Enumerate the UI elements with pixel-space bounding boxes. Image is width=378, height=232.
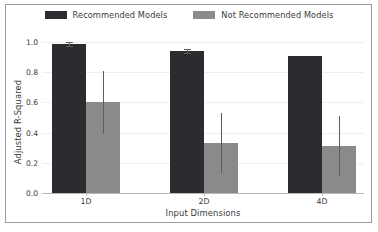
x-tick-mark — [322, 193, 323, 196]
x-tick-label-4d: 4D — [292, 197, 352, 206]
bar-1d-recommended — [52, 44, 86, 193]
y-axis-label: Adjusted R-Squared — [13, 57, 23, 187]
error-bar-cap — [66, 46, 73, 47]
error-bar — [103, 71, 104, 134]
chart-figure: Recommended Models Not Recommended Model… — [0, 0, 378, 232]
plot-area — [42, 42, 364, 193]
bar-2d-recommended — [170, 51, 204, 193]
error-bar — [221, 113, 222, 173]
x-tick-mark — [86, 193, 87, 196]
x-axis-line — [42, 193, 364, 194]
x-tick-mark — [204, 193, 205, 196]
bar-4d-recommended — [288, 56, 322, 193]
x-tick-label-2d: 2D — [174, 197, 234, 206]
error-bar-cap — [66, 42, 73, 43]
x-axis-label: Input Dimensions — [42, 208, 364, 218]
y-tick-label: 0.0 — [16, 189, 38, 198]
error-bar-cap — [184, 49, 191, 50]
x-tick-label-1d: 1D — [56, 197, 116, 206]
error-bar — [339, 116, 340, 176]
gridline — [42, 42, 364, 43]
error-bar-cap — [184, 53, 191, 54]
y-tick-label: 1.0 — [16, 38, 38, 47]
